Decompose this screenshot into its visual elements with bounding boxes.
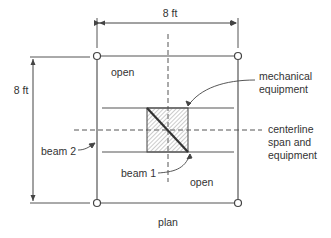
centerline-label-2: span and: [268, 136, 311, 148]
top-dimension: 8 ft: [97, 7, 238, 48]
column-icon: [94, 53, 101, 60]
mechanical-label-2: equipment: [259, 83, 308, 95]
column-icon: [235, 200, 242, 207]
column-icon: [235, 53, 242, 60]
caption: plan: [158, 216, 178, 228]
plan-diagram: 8 ft 8 ft: [0, 0, 331, 238]
top-dimension-label: 8 ft: [163, 7, 178, 19]
mechanical-equipment-leader: [188, 80, 255, 106]
beam-1-leader: [158, 154, 190, 173]
mechanical-equipment: [147, 108, 188, 152]
centerline-label-1: centerline: [268, 123, 314, 135]
left-dimension-label: 8 ft: [14, 84, 29, 96]
open-label-top: open: [111, 66, 135, 78]
beam-2-label: beam 2: [41, 145, 76, 157]
mechanical-label-1: mechanical: [259, 70, 312, 82]
centerline-label-3: equipment: [268, 149, 317, 161]
beam-1-label: beam 1: [121, 167, 156, 179]
column-icon: [94, 200, 101, 207]
open-label-bottom: open: [190, 176, 214, 188]
